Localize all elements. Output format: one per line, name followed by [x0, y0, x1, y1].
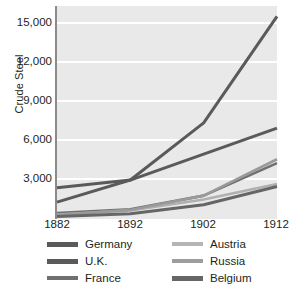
- legend-label-france: France: [85, 272, 121, 284]
- legend-swatch-france: [47, 276, 78, 280]
- legend-label-germany: Germany: [85, 238, 132, 250]
- x-axis-tick-1882: 1882: [30, 218, 84, 230]
- y-axis-tick-3000: 3,000: [0, 172, 52, 184]
- plot-area: [57, 6, 277, 219]
- legend-column-left: Germany U.K. France: [47, 236, 132, 287]
- chart-area: Crude Steel 15,000 12,000 9,000 6,000 3,…: [0, 0, 305, 232]
- legend: Germany U.K. France Austria Russia: [0, 236, 305, 290]
- series-lines: [57, 6, 277, 219]
- y-axis-tick-12000: 12,000: [0, 55, 52, 67]
- y-axis-tick-15000: 15,000: [0, 16, 52, 28]
- figure: Crude Steel 15,000 12,000 9,000 6,000 3,…: [0, 0, 305, 290]
- legend-swatch-uk: [47, 259, 78, 264]
- y-axis-tick-6000: 6,000: [0, 133, 52, 145]
- legend-item-austria: Austria: [172, 236, 252, 252]
- legend-label-austria: Austria: [210, 238, 246, 250]
- legend-item-russia: Russia: [172, 253, 252, 269]
- x-axis-tick-1912: 1912: [249, 218, 303, 230]
- legend-label-belgium: Belgium: [210, 272, 252, 284]
- legend-column-right: Austria Russia Belgium: [172, 236, 252, 287]
- legend-item-germany: Germany: [47, 236, 132, 252]
- x-axis-tick-1892: 1892: [103, 218, 157, 230]
- legend-label-russia: Russia: [210, 255, 245, 267]
- legend-label-uk: U.K.: [85, 255, 107, 267]
- legend-swatch-russia: [172, 259, 203, 263]
- x-axis-tick-1902: 1902: [176, 218, 230, 230]
- legend-swatch-belgium: [172, 276, 203, 281]
- y-axis-label: Crude Steel: [13, 29, 25, 139]
- y-axis-tick-9000: 9,000: [0, 94, 52, 106]
- legend-swatch-austria: [172, 242, 203, 246]
- legend-swatch-germany: [47, 242, 78, 247]
- caption-strip: [8, 284, 300, 290]
- legend-item-uk: U.K.: [47, 253, 132, 269]
